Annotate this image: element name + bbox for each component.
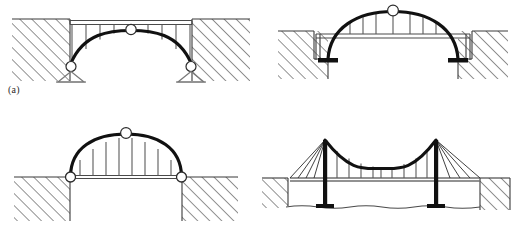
panel-d-drawing	[262, 120, 524, 240]
panel-c-through-arch: (c)	[262, 0, 524, 120]
left-tower	[323, 140, 327, 206]
left-bank-ground	[14, 177, 70, 221]
arch-rib	[71, 31, 191, 64]
right-tower-base-plate	[427, 204, 445, 208]
panel-a-label: (a)	[8, 84, 20, 95]
left-tower-base-plate	[316, 204, 334, 208]
crown-hinge	[126, 24, 136, 34]
right-tower	[434, 140, 438, 206]
main-cable	[325, 140, 436, 169]
left-abutment-ground	[12, 19, 70, 81]
crown-hinge	[121, 128, 132, 139]
water-line	[286, 206, 480, 209]
left-support-pin	[66, 172, 76, 182]
right-abutment-ground	[192, 19, 250, 81]
right-fixed-base-plate	[448, 58, 468, 63]
deck	[290, 178, 480, 181]
left-backstay-cables	[290, 140, 325, 178]
panel-c-drawing	[262, 0, 524, 120]
deck	[70, 176, 182, 179]
right-bank-ground	[480, 178, 510, 210]
deck	[316, 34, 470, 60]
panel-b-drawing	[0, 120, 262, 240]
panel-a-drawing	[0, 0, 262, 120]
right-backstay-cables	[436, 140, 480, 178]
crown-hinge	[388, 5, 399, 16]
panel-d-suspension-bridge: (d)	[262, 120, 524, 240]
panel-b-arch-deck-below: (b)	[0, 120, 262, 240]
arch-rib	[71, 134, 182, 176]
left-bank-ground	[262, 178, 288, 208]
hangers	[80, 138, 171, 176]
right-support-pin	[177, 172, 187, 182]
panel-a-three-hinged-arch: (a)	[0, 0, 262, 120]
left-fixed-base-plate	[318, 58, 338, 63]
right-bank-ground	[182, 177, 238, 221]
bridge-types-figure: (a)	[0, 0, 524, 240]
